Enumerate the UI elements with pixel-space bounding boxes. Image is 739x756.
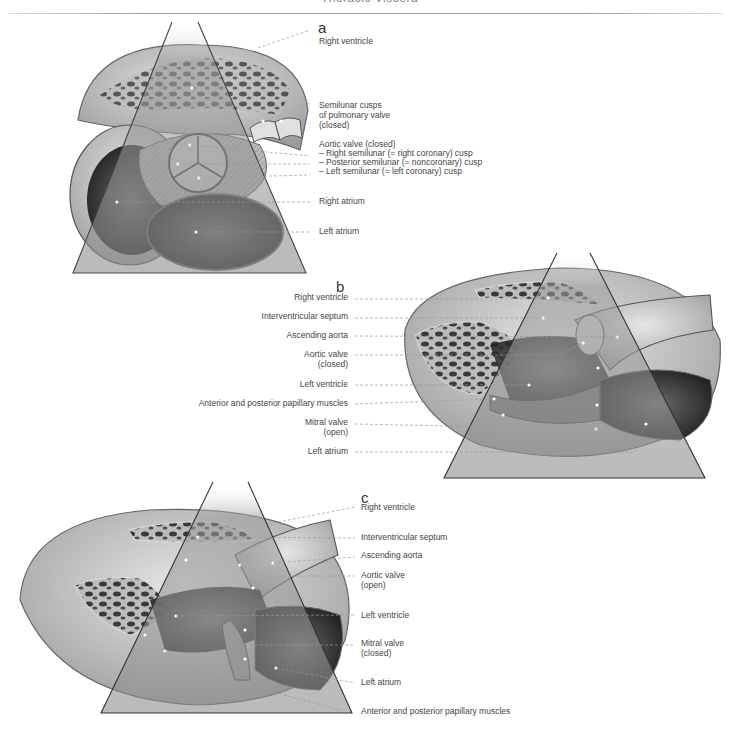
label-left-ventricle-c: Left ventricle — [361, 610, 409, 621]
label-left-atrium-a: Left atrium — [319, 226, 359, 237]
label-left-atrium-c: Left atrium — [361, 677, 401, 688]
panel-letter-a: a — [318, 19, 326, 36]
label-interventricular-septum-c: Interventricular septum — [361, 532, 447, 543]
label-semilunar-cusps-2: of pulmonary valve — [319, 110, 390, 121]
label-interventricular-septum-b: Interventricular septum — [262, 311, 348, 322]
label-mitral-valve-b-2: (open) — [323, 427, 348, 438]
label-left-atrium-b: Left atrium — [308, 446, 348, 457]
label-aortic-valve-b-2: (closed) — [318, 359, 348, 370]
panel-b-illustration — [355, 253, 720, 478]
label-mitral-valve-c-2: (closed) — [361, 648, 391, 659]
label-right-ventricle-c: Right ventricle — [361, 502, 415, 513]
label-mitral-valve-c-1: Mitral valve — [361, 638, 404, 649]
panel-c-illustration — [20, 482, 355, 713]
panel-a-illustration — [70, 22, 310, 273]
label-mitral-valve-b-1: Mitral valve — [305, 417, 348, 428]
label-right-ventricle-a: Right ventricle — [319, 36, 373, 47]
label-papillary-muscles-b: Anterior and posterior papillary muscles — [199, 398, 348, 409]
label-semilunar-cusps-3: (closed) — [319, 120, 349, 131]
label-semilunar-cusps-1: Semilunar cusps — [319, 100, 382, 111]
label-aortic-valve-c-1: Aortic valve — [361, 570, 405, 581]
label-left-semilunar-cusp: – Left semilunar (= left coronary) cusp — [319, 166, 462, 177]
label-papillary-muscles-c: Anterior and posterior papillary muscles — [361, 706, 510, 717]
label-aortic-valve-b-1: Aortic valve — [304, 349, 348, 360]
label-right-ventricle-b: Right ventricle — [294, 292, 348, 303]
label-right-atrium-a: Right atrium — [319, 196, 365, 207]
label-left-ventricle-b: Left ventricle — [300, 379, 348, 390]
label-ascending-aorta-c: Ascending aorta — [361, 550, 422, 561]
label-aortic-valve-c-2: (open) — [361, 580, 386, 591]
label-ascending-aorta-b: Ascending aorta — [287, 330, 348, 341]
